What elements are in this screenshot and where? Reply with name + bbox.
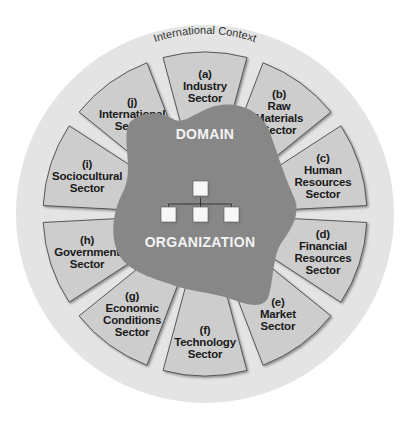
- diagram-canvas: International Context (a)IndustrySector(…: [0, 0, 409, 425]
- org-box-top: [193, 181, 208, 196]
- org-box-right: [224, 207, 239, 222]
- organization-label: ORGANIZATION: [145, 234, 256, 250]
- organizational-environment-diagram: International Context (a)IndustrySector(…: [0, 0, 409, 425]
- org-box-left: [161, 207, 176, 222]
- domain-label: DOMAIN: [176, 126, 235, 142]
- org-box-middle: [193, 207, 208, 222]
